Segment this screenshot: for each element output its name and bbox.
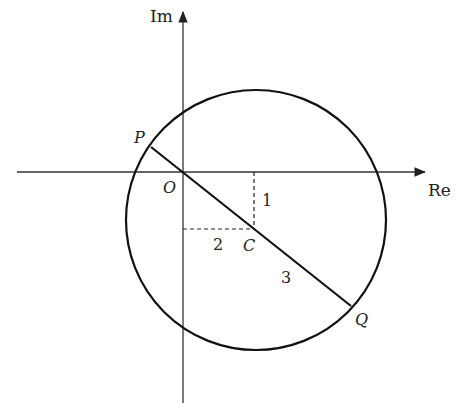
- imag-axis-label: Im: [150, 6, 173, 26]
- circle: [126, 90, 386, 350]
- center-c-label: C: [243, 236, 255, 255]
- origin-label: O: [163, 178, 176, 197]
- complex-plane-diagram: Im Re O P C Q 1 2 3: [0, 0, 457, 403]
- radius-label: 3: [281, 268, 291, 287]
- real-axis-label: Re: [428, 180, 451, 200]
- vertical-offset-label: 1: [262, 191, 272, 210]
- horizontal-offset-label: 2: [213, 235, 223, 254]
- line-pq: [151, 147, 351, 306]
- point-p-label: P: [133, 128, 145, 147]
- point-q-label: Q: [355, 310, 368, 329]
